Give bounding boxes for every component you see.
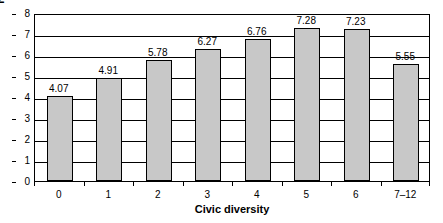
y-axis-tick-label: 0 — [16, 177, 30, 187]
bar[interactable] — [344, 29, 370, 181]
x-axis-tick-mark — [133, 182, 134, 186]
bar-value-label: 4.07 — [39, 84, 79, 94]
gridline — [35, 99, 429, 100]
bar-value-label: 5.78 — [138, 48, 178, 58]
gridline — [35, 57, 429, 58]
gridline — [35, 120, 429, 121]
y-axis-tick-mark — [12, 14, 16, 15]
bar[interactable] — [294, 28, 320, 181]
x-axis-tick-label: 6 — [353, 189, 359, 201]
bar-value-label: 7.23 — [336, 17, 376, 27]
y-axis-tick-label: 6 — [16, 51, 30, 61]
bar-value-label: 5.55 — [385, 52, 425, 62]
x-axis-tick-mark — [282, 182, 283, 186]
x-axis-tick-label: 0 — [56, 189, 62, 201]
y-axis-tick-mark — [12, 77, 16, 78]
y-axis-tick-labels: 012345678 — [16, 14, 30, 182]
x-axis-tick-label: 3 — [204, 189, 210, 201]
x-axis-tick-labels: 01234567–12 — [34, 189, 430, 202]
y-axis-tick-label: 7 — [16, 30, 30, 40]
x-axis-tick-mark — [183, 182, 184, 186]
x-axis-tick-label: 4 — [254, 189, 260, 201]
bar[interactable] — [245, 39, 271, 181]
gridline — [35, 141, 429, 142]
x-axis-tick-mark — [381, 182, 382, 186]
bar-value-label: 7.28 — [286, 16, 326, 26]
gridline — [35, 78, 429, 79]
x-axis-tick-label: 5 — [303, 189, 309, 201]
x-axis-title: Civic diversity — [34, 203, 430, 216]
x-axis-tick-label: 1 — [105, 189, 111, 201]
bar[interactable] — [195, 49, 221, 181]
y-axis-tick-mark — [12, 182, 16, 183]
y-axis-tick-label: 5 — [16, 72, 30, 82]
y-axis-title: Network diversity — [0, 0, 7, 42]
bar-value-label: 6.76 — [237, 27, 277, 37]
y-axis-tick-mark — [12, 35, 16, 36]
x-axis-tick-mark — [34, 182, 35, 186]
y-axis-tick-mark — [12, 161, 16, 162]
x-axis-tick-mark — [331, 182, 332, 186]
bar[interactable] — [96, 78, 122, 181]
x-axis-tick-mark — [84, 182, 85, 186]
bar-value-label: 4.91 — [88, 66, 128, 76]
y-axis-tick-label: 3 — [16, 114, 30, 124]
bar-value-label: 6.27 — [187, 37, 227, 47]
x-axis-tick-label: 7–12 — [394, 189, 416, 201]
y-axis-tick-label: 2 — [16, 135, 30, 145]
x-axis-tick-mark — [429, 182, 430, 186]
y-axis-tick-mark — [12, 140, 16, 141]
x-axis-tick-label: 2 — [155, 189, 161, 201]
y-axis-tick-mark — [12, 119, 16, 120]
plot-area — [34, 14, 430, 182]
y-axis-tick-label: 4 — [16, 93, 30, 103]
bar[interactable] — [146, 60, 172, 181]
x-axis-tick-mark — [232, 182, 233, 186]
y-axis-tick-label: 8 — [16, 9, 30, 19]
gridline — [35, 36, 429, 37]
x-axis-tick-marks — [34, 182, 430, 187]
gridline — [35, 162, 429, 163]
y-axis-tick-label: 1 — [16, 156, 30, 166]
bar[interactable] — [47, 96, 73, 181]
bar[interactable] — [393, 64, 419, 181]
y-axis-tick-mark — [12, 98, 16, 99]
bar-chart: Network diversity 012345678 01234567–12 … — [0, 0, 443, 223]
y-axis-tick-mark — [12, 56, 16, 57]
